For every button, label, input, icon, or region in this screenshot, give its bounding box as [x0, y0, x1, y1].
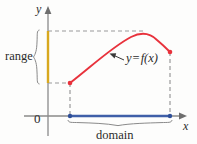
- domain-label: domain: [96, 129, 134, 142]
- graph-canvas: [0, 0, 197, 144]
- function-graph-figure: range domain 0 y x y=f(x): [0, 0, 197, 144]
- function-equation-y: y: [126, 51, 132, 65]
- origin-label: 0: [34, 112, 41, 125]
- domain-right-endpoint-dot: [168, 114, 172, 118]
- range-brace: [34, 30, 40, 84]
- guide-lines-group: [48, 31, 170, 116]
- y-axis-label: y: [36, 3, 41, 15]
- domain-brace: [68, 120, 172, 126]
- x-axis-label: x: [183, 120, 188, 132]
- curve-right-endpoint-dot: [168, 50, 173, 55]
- curve-left-endpoint-dot: [68, 81, 73, 86]
- range-label: range: [5, 50, 33, 63]
- y-axis-arrowhead: [45, 6, 52, 14]
- function-equation-equals: =: [132, 51, 141, 65]
- domain-left-endpoint-dot: [68, 114, 72, 118]
- function-equation-fx: f(x): [141, 51, 158, 65]
- function-label-leader-arrow: [110, 53, 125, 60]
- function-equation-label: y=f(x): [126, 52, 158, 65]
